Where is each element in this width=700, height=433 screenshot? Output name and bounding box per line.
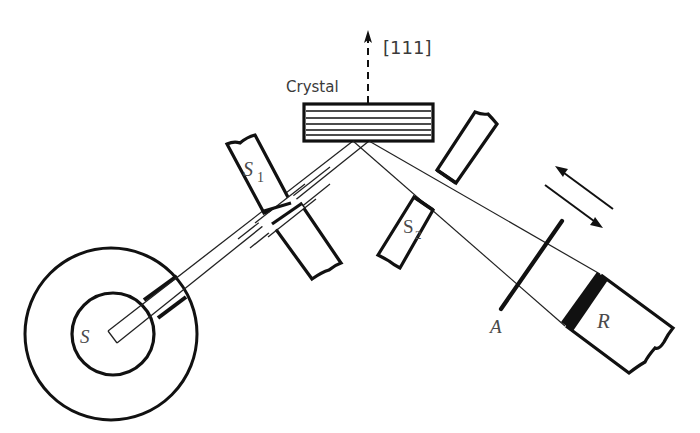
receiver-label: R (596, 309, 610, 333)
receiver-body (566, 275, 673, 373)
slit-2-upper-jaw (437, 112, 497, 183)
diagram-canvas: S 1 Crystal [111] S 2 A (0, 0, 700, 433)
crystal (304, 104, 433, 141)
source-label: S (80, 326, 90, 347)
normal-direction-arrow (364, 30, 372, 103)
slit-1-label: S (243, 158, 253, 180)
crystal-label: Crystal (286, 78, 339, 96)
absorber-label: A (488, 316, 502, 337)
direction-label: [111] (383, 37, 431, 58)
receiver (561, 272, 673, 373)
slit-2-subscript: 2 (415, 227, 422, 242)
motion-arrows (545, 166, 613, 228)
slit-1-subscript: 1 (257, 170, 264, 185)
slit-2-label: S (403, 216, 414, 237)
